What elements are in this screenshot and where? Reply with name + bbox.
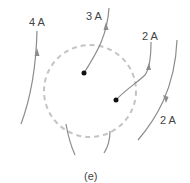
current-endpoint-dot — [82, 71, 87, 76]
wire-2a-top — [116, 42, 151, 100]
label-2a-right: 2 A — [160, 114, 177, 126]
figure-caption: (e) — [84, 170, 97, 182]
wire-4a — [21, 31, 37, 124]
current-endpoint-dot — [114, 98, 119, 103]
arrow-up-icon — [104, 22, 109, 30]
ampere-law-diagram: 4 A 3 A 2 A 2 A (e) — [0, 0, 190, 183]
label-2a-top: 2 A — [142, 30, 159, 42]
label-3a: 3 A — [86, 10, 103, 22]
label-4a: 4 A — [29, 16, 46, 28]
wire-bottom-left — [66, 124, 75, 155]
amperian-loop — [44, 45, 136, 137]
arrow-up-icon — [146, 63, 151, 70]
arrow-up-icon — [35, 48, 40, 56]
